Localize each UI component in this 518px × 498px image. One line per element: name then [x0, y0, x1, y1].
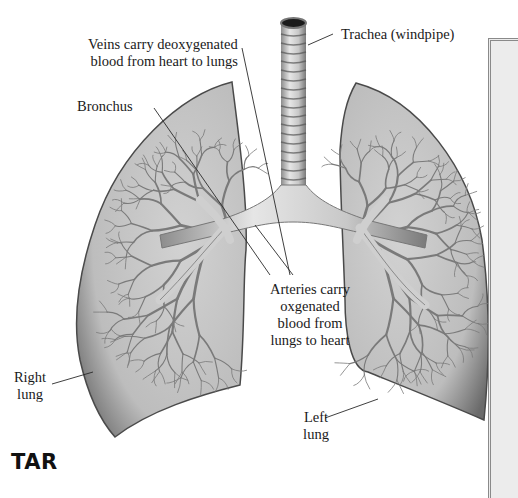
arteries-label-line-3: blood from	[255, 315, 365, 332]
blood-vessel	[322, 164, 332, 167]
left-lung-label-line-2: lung	[296, 426, 336, 443]
blood-vessel	[324, 157, 332, 164]
blood-vessel	[354, 375, 365, 386]
left-lung-label: Left lung	[296, 409, 336, 443]
arteries-leader-line	[255, 225, 293, 275]
trachea-leader-line	[308, 34, 333, 45]
side-panel	[488, 38, 518, 498]
blood-vessel	[341, 364, 350, 376]
arteries-label-line-2: oxgenated	[255, 298, 365, 315]
blood-vessel	[197, 156, 198, 170]
blood-vessel	[244, 167, 258, 170]
blood-vessel	[331, 149, 340, 155]
arteries-label-line-1: Arteries carry	[255, 281, 365, 298]
right-lung-label: Right lung	[10, 369, 50, 403]
right-lung-label-line-1: Right	[10, 369, 50, 386]
veins-label: Veins carry deoxygenated blood from hear…	[88, 36, 238, 70]
right-lung-label-line-2: lung	[10, 386, 50, 403]
left-lung	[340, 83, 488, 420]
blood-vessel	[364, 375, 369, 389]
bronchus-label: Bronchus	[77, 98, 133, 115]
blood-vessel	[249, 149, 257, 156]
blood-vessel	[246, 146, 249, 156]
blood-vessel	[258, 168, 267, 174]
arteries-label-line-4: lungs to heart	[255, 332, 365, 349]
blood-vessel	[335, 363, 350, 364]
trachea-label: Trachea (windpipe)	[341, 26, 454, 43]
right-lung	[76, 82, 246, 437]
veins-label-line-1: Veins carry deoxygenated	[88, 36, 238, 53]
arteries-label: Arteries carry oxgenated blood from lung…	[255, 281, 365, 349]
left-lung-label-line-1: Left	[296, 409, 336, 426]
brand-text: TAR	[11, 450, 58, 474]
blood-vessel	[438, 315, 463, 316]
trachea	[281, 18, 306, 194]
veins-label-line-2: blood from heart to lungs	[88, 53, 238, 70]
